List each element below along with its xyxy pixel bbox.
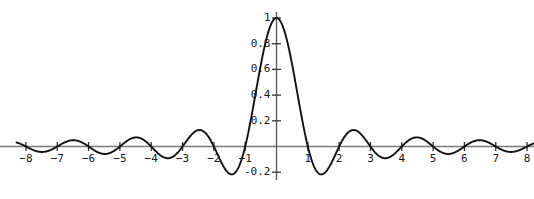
y-tick-label: -0.2 [213, 166, 271, 177]
y-tick-label: 1 [213, 12, 271, 23]
sinc-curve [17, 18, 534, 174]
sinc-function-plot: −8−7−6−5−4−3−2−11234567810.80.60.40.2-0.… [0, 0, 534, 199]
y-tick-label: 0.8 [213, 38, 271, 49]
y-tick-label: 0.2 [213, 115, 271, 126]
y-tick-label: 0.4 [213, 89, 271, 100]
y-tick-label: 0.6 [213, 63, 271, 74]
x-tick-label: 8 [505, 153, 534, 164]
x-tick-label: −1 [223, 153, 267, 164]
